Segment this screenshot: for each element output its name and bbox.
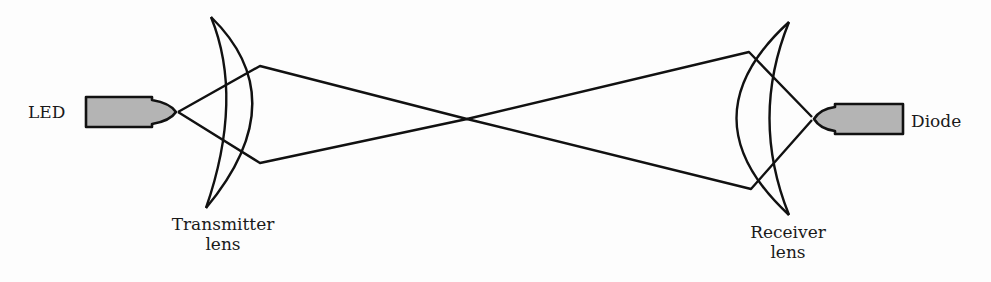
ray-upper-to-lower [178, 66, 812, 189]
optical-link-diagram: LED Transmitter lens Receiver lens Diode [0, 0, 991, 282]
led-shape [86, 97, 176, 127]
transmitter-lens-label: Transmitter lens [163, 214, 283, 254]
led-label: LED [28, 102, 65, 122]
transmitter-lens-label-line2: lens [163, 234, 283, 254]
receiver-lens-label-line1: Receiver [733, 222, 843, 242]
transmitter-lens-icon [206, 17, 252, 208]
receiver-lens-icon [737, 22, 790, 215]
diode-label: Diode [911, 111, 961, 131]
receiver-lens-label-line2: lens [733, 242, 843, 262]
receiver-lens-label: Receiver lens [733, 222, 843, 262]
light-rays [178, 52, 812, 189]
diode-shape [814, 104, 903, 134]
transmitter-lens-label-line1: Transmitter [163, 214, 283, 234]
